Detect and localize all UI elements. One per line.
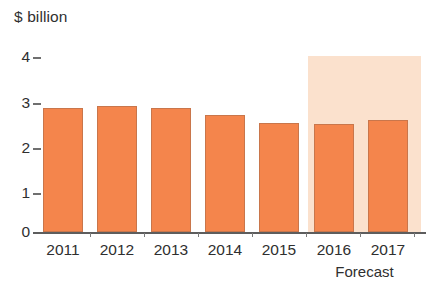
bar-chart: $ billion 4 3 2 1 0 2011 <box>0 0 428 283</box>
y-tick-label-4: 4 <box>12 47 30 67</box>
x-tick-mark-2011 <box>90 233 91 237</box>
x-axis-line <box>33 232 426 234</box>
x-tick-mark-2013 <box>198 233 199 237</box>
bar-2015 <box>259 123 299 232</box>
forecast-caption: Forecast <box>308 263 421 280</box>
y-tick-label-1: 1 <box>12 183 30 203</box>
x-tick-mark-2012 <box>144 233 145 237</box>
y-tick-mark-4 <box>33 57 41 59</box>
x-tick-label-2016: 2016 <box>314 241 354 259</box>
bar-2012 <box>97 106 137 232</box>
x-tick-mark-2015 <box>306 233 307 237</box>
x-tick-label-2013: 2013 <box>151 241 191 259</box>
x-tick-label-2017: 2017 <box>368 241 408 259</box>
x-tick-label-2012: 2012 <box>97 241 137 259</box>
bar-2017 <box>368 120 408 232</box>
y-tick-mark-2 <box>33 148 41 150</box>
x-tick-label-2014: 2014 <box>205 241 245 259</box>
y-tick-mark-1 <box>33 193 41 195</box>
y-tick-label-0: 0 <box>12 222 30 242</box>
x-tick-label-2011: 2011 <box>43 241 83 259</box>
y-tick-label-2: 2 <box>12 138 30 158</box>
bar-2013 <box>151 108 191 232</box>
x-tick-label-2015: 2015 <box>259 241 299 259</box>
bar-2016 <box>314 124 354 232</box>
x-tick-mark-2014 <box>252 233 253 237</box>
bar-2014 <box>205 115 245 232</box>
bar-2011 <box>43 108 83 232</box>
x-tick-mark-2017 <box>414 233 415 237</box>
x-tick-mark-2016 <box>360 233 361 237</box>
plot-area: 4 3 2 1 0 2011 2012 2013 2014 2015 <box>0 0 428 283</box>
y-tick-mark-3 <box>33 103 41 105</box>
y-tick-label-3: 3 <box>12 93 30 113</box>
